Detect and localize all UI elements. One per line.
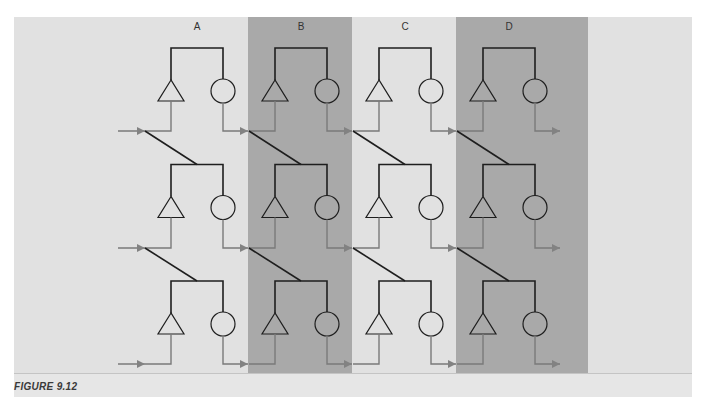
bracket-wire xyxy=(171,165,223,197)
input-wire xyxy=(353,334,379,364)
output-arrow xyxy=(431,336,456,364)
column-label-c: C xyxy=(401,21,408,32)
circle-icon xyxy=(211,196,235,220)
figure-caption: FIGURE 9.12 xyxy=(14,381,77,392)
unit-c-row-3 xyxy=(353,281,456,364)
bracket-wire xyxy=(171,281,223,313)
shaded-column-d xyxy=(456,17,588,373)
diagonal-wire xyxy=(353,248,405,281)
output-arrow xyxy=(431,220,456,249)
bracket-wire xyxy=(171,48,223,80)
unit-a-row-2 xyxy=(145,165,248,282)
column-label-d: D xyxy=(505,21,512,32)
triangle-icon xyxy=(366,80,392,101)
unit-a-row-3 xyxy=(145,281,248,364)
circle-icon xyxy=(419,312,443,336)
triangle-icon xyxy=(366,197,392,218)
triangle-icon xyxy=(158,80,184,101)
triangle-icon xyxy=(366,313,392,334)
output-arrow xyxy=(223,336,248,364)
column-shades xyxy=(248,17,588,373)
column-label-a: A xyxy=(194,21,201,32)
circle-icon xyxy=(211,312,235,336)
output-arrow xyxy=(223,103,248,131)
triangle-icon xyxy=(158,313,184,334)
input-wire xyxy=(145,101,171,131)
input-wire xyxy=(353,218,379,249)
input-wire xyxy=(145,334,171,364)
unit-c-row-1 xyxy=(353,48,456,165)
output-arrow xyxy=(431,103,456,131)
circle-icon xyxy=(419,196,443,220)
circle-icon xyxy=(211,79,235,103)
unit-c-row-2 xyxy=(353,165,456,282)
diagonal-wire xyxy=(353,131,405,165)
triangle-icon xyxy=(158,197,184,218)
circle-icon xyxy=(419,79,443,103)
output-arrow xyxy=(223,220,248,249)
bracket-wire xyxy=(379,48,431,80)
diagonal-wire xyxy=(145,248,197,281)
column-label-b: B xyxy=(298,21,305,32)
unit-a-row-1 xyxy=(145,48,248,165)
input-wire xyxy=(145,218,171,249)
input-wire xyxy=(353,101,379,131)
bracket-wire xyxy=(379,281,431,313)
diagonal-wire xyxy=(145,131,197,165)
caption-area: FIGURE 9.12 xyxy=(14,373,692,397)
shaded-column-b xyxy=(248,17,352,373)
bracket-wire xyxy=(379,165,431,197)
